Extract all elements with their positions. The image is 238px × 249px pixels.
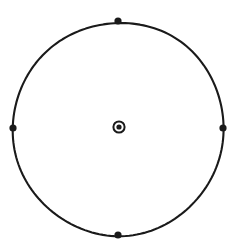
vertex-point-west bbox=[9, 124, 16, 131]
vertex-point-north bbox=[114, 17, 121, 24]
vertex-point-east bbox=[219, 124, 226, 131]
center-marker-dot bbox=[116, 124, 121, 129]
main-circle bbox=[13, 23, 224, 236]
circle-figure bbox=[0, 0, 238, 249]
vertex-point-south bbox=[114, 231, 121, 238]
diagram-canvas bbox=[0, 0, 238, 249]
